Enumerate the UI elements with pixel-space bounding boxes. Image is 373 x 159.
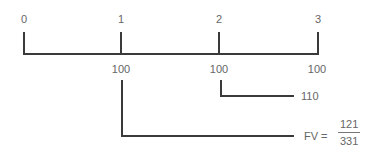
compounded-value-110: 110 [301, 91, 319, 102]
cash-flow-period-1: 100 [112, 64, 130, 75]
period-label-1: 1 [118, 14, 124, 25]
bracket-period-1-horizontal [121, 135, 294, 137]
fv-total-331: 331 [340, 133, 358, 147]
tick-period-0 [23, 32, 25, 54]
cash-flow-period-2: 100 [210, 64, 228, 75]
cash-flow-period-3: 100 [308, 64, 326, 75]
bracket-period-2-horizontal [220, 95, 294, 97]
fv-label: FV = [304, 131, 328, 142]
fv-sum: 121 331 [338, 119, 360, 147]
tick-period-1 [120, 32, 122, 54]
period-label-3: 3 [315, 14, 321, 25]
period-label-2: 2 [216, 14, 222, 25]
period-label-0: 0 [21, 14, 27, 25]
fv-addend-121: 121 [338, 119, 360, 133]
bracket-period-1-vertical [121, 80, 123, 137]
tick-period-3 [317, 32, 319, 54]
tick-period-2 [218, 32, 220, 54]
timeline-axis [23, 53, 319, 55]
